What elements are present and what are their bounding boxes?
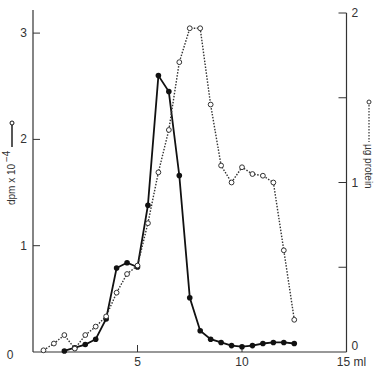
protein-point	[114, 290, 119, 295]
plot-area	[41, 26, 297, 354]
protein-point	[41, 348, 46, 353]
protein-point	[187, 26, 192, 31]
protein-point	[146, 221, 151, 226]
protein-point	[229, 180, 234, 185]
protein-point	[156, 170, 161, 175]
dpm-point	[281, 340, 287, 346]
protein-point	[208, 102, 213, 107]
chart: 012301251015 mldpm x 10−4µg protein	[0, 0, 380, 372]
protein-line	[44, 28, 295, 350]
right-tick-label: 2	[352, 6, 359, 20]
left-axis-title-text: dpm x 10	[6, 163, 17, 205]
left-tick-label: 2	[20, 132, 27, 146]
dpm-point	[114, 265, 120, 271]
right-tick-label: 0	[352, 339, 359, 353]
dpm-point	[187, 295, 193, 301]
protein-point	[135, 263, 140, 268]
protein-point	[281, 248, 286, 253]
right-axis-title: µg protein	[363, 100, 374, 189]
dpm-point	[93, 336, 99, 342]
protein-point	[250, 172, 255, 177]
dpm-point	[197, 328, 203, 334]
dpm-point	[271, 340, 277, 346]
protein-point	[104, 314, 109, 319]
dpm-point	[218, 340, 224, 346]
protein-point	[62, 333, 67, 338]
dpm-point	[239, 344, 245, 350]
left-tick-label: 3	[20, 26, 27, 40]
open-circle-sample-icon	[10, 121, 14, 125]
left-tick-label: 1	[20, 239, 27, 253]
dpm-point	[62, 348, 68, 354]
x-tick-label: 5	[134, 355, 141, 369]
axes	[33, 10, 347, 352]
protein-point	[125, 272, 130, 277]
dpm-point	[166, 89, 172, 95]
dpm-point	[229, 343, 235, 349]
protein-point	[240, 165, 245, 170]
x-tick-label: 10	[235, 355, 249, 369]
protein-point	[292, 317, 297, 322]
protein-point	[177, 60, 182, 65]
protein-point	[261, 173, 266, 178]
protein-point	[198, 26, 203, 31]
dpm-point	[260, 341, 266, 347]
open-circle-sample-icon	[367, 100, 371, 104]
right-axis-title-text: µg protein	[363, 144, 374, 189]
left-tick-label: 0	[7, 348, 14, 362]
dpm-point	[82, 342, 88, 348]
dpm-point	[145, 203, 151, 209]
dpm-point	[291, 341, 297, 347]
dpm-line	[64, 76, 294, 351]
protein-point	[166, 128, 171, 133]
protein-point	[219, 163, 224, 168]
protein-point	[83, 333, 88, 338]
left-axis-title: dpm x 10−4	[1, 121, 17, 205]
protein-point	[52, 341, 57, 346]
dpm-point	[250, 343, 256, 349]
dpm-point	[177, 173, 183, 179]
dpm-point	[156, 73, 162, 79]
left-axis-exponent: −4	[1, 150, 12, 162]
dpm-point	[208, 336, 214, 342]
x-tick-label: 15 ml	[337, 355, 366, 369]
right-tick-label: 1	[352, 176, 359, 190]
protein-point	[93, 324, 98, 329]
dpm-point	[124, 260, 130, 266]
protein-point	[72, 346, 77, 351]
axis-labels: 012301251015 mldpm x 10−4µg protein	[1, 6, 374, 369]
protein-point	[271, 180, 276, 185]
